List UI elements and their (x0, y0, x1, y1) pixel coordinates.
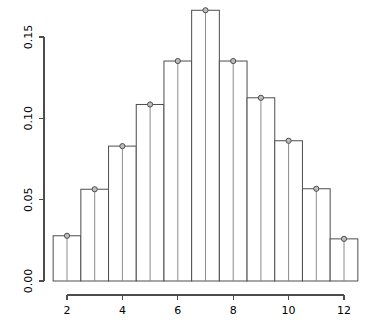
data-point-marker (120, 144, 125, 149)
x-axis-tick-label: 10 (282, 304, 296, 317)
y-axis-tick-label: 0.05 (22, 187, 35, 212)
y-axis-tick-label: 0.10 (22, 106, 35, 131)
data-point-marker (175, 58, 180, 63)
y-axis-tick-label: 0.15 (22, 25, 35, 50)
data-point-marker (258, 95, 263, 100)
data-point-marker (148, 102, 153, 107)
x-axis-tick-label: 2 (64, 304, 71, 317)
x-axis-tick-label: 6 (174, 304, 181, 317)
x-axis-tick-label: 4 (119, 304, 126, 317)
data-point-marker (203, 8, 208, 13)
data-point-marker (231, 58, 236, 63)
data-point-marker (64, 233, 69, 238)
y-axis-tick-label: 0.00 (22, 269, 35, 294)
data-point-marker (314, 186, 319, 191)
data-point-marker (341, 236, 346, 241)
x-axis-tick-label: 8 (230, 304, 237, 317)
data-point-marker (286, 138, 291, 143)
x-axis-tick-label: 12 (337, 304, 351, 317)
plot-root: 0.000.050.100.1524681012 (0, 0, 377, 333)
data-point-marker (92, 187, 97, 192)
histogram-chart: 0.000.050.100.1524681012 (0, 0, 377, 333)
